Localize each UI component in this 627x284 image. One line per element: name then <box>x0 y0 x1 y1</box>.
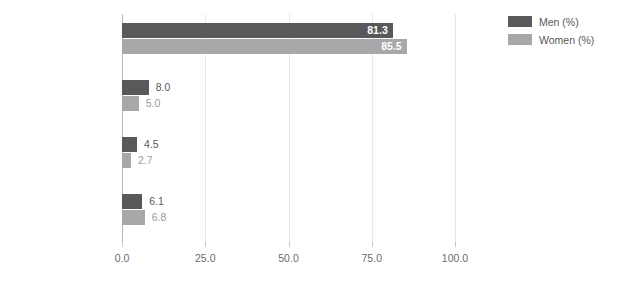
bar-value-men: 8.0 <box>149 80 171 95</box>
bar-value-women: 5.0 <box>139 96 161 111</box>
legend-swatch-icon <box>508 34 532 45</box>
bar-men <box>122 194 142 209</box>
bar-women <box>122 96 139 111</box>
bar-chart: 0.025.050.075.0100.0 Employed81.385.5Sel… <box>0 0 627 284</box>
x-axis-tick-label: 50.0 <box>278 252 298 264</box>
bar-value-men: 81.3 <box>367 23 392 38</box>
bar-value-men: 6.1 <box>142 194 164 209</box>
bar-value-women: 85.5 <box>381 39 406 54</box>
legend-label: Men (%) <box>539 16 579 28</box>
bar-value-men: 4.5 <box>137 137 159 152</box>
plot-area: 0.025.050.075.0100.0 Employed81.385.5Sel… <box>122 14 455 242</box>
bar-value-women: 6.8 <box>145 210 167 225</box>
x-axis-tick <box>122 242 123 247</box>
bar-group: Employed other4.52.7 <box>122 128 455 185</box>
x-axis-tick-label: 100.0 <box>442 252 468 264</box>
legend-item[interactable]: Men (%) <box>508 14 594 29</box>
x-axis-tick-label: 25.0 <box>195 252 215 264</box>
bar-group: Self-employed8.05.0 <box>122 71 455 128</box>
x-axis-tick <box>205 242 206 247</box>
bar-value-women: 2.7 <box>131 153 153 168</box>
x-axis-tick-label: 0.0 <box>115 252 130 264</box>
bar-women <box>122 153 131 168</box>
legend-item[interactable]: Women (%) <box>508 32 594 47</box>
bar-women <box>122 39 407 54</box>
legend-swatch-icon <box>508 16 532 27</box>
bar-group: Employed81.385.5 <box>122 14 455 71</box>
x-axis-tick-label: 75.0 <box>362 252 382 264</box>
bar-men <box>122 80 149 95</box>
x-axis-tick <box>455 242 456 247</box>
bar-men <box>122 23 393 38</box>
legend-label: Women (%) <box>539 34 594 46</box>
bar-group: Unemployed6.16.8 <box>122 185 455 242</box>
bar-men <box>122 137 137 152</box>
x-axis-tick <box>372 242 373 247</box>
bar-women <box>122 210 145 225</box>
gridline <box>455 14 456 242</box>
x-axis-tick <box>289 242 290 247</box>
legend: Men (%)Women (%) <box>508 14 594 50</box>
